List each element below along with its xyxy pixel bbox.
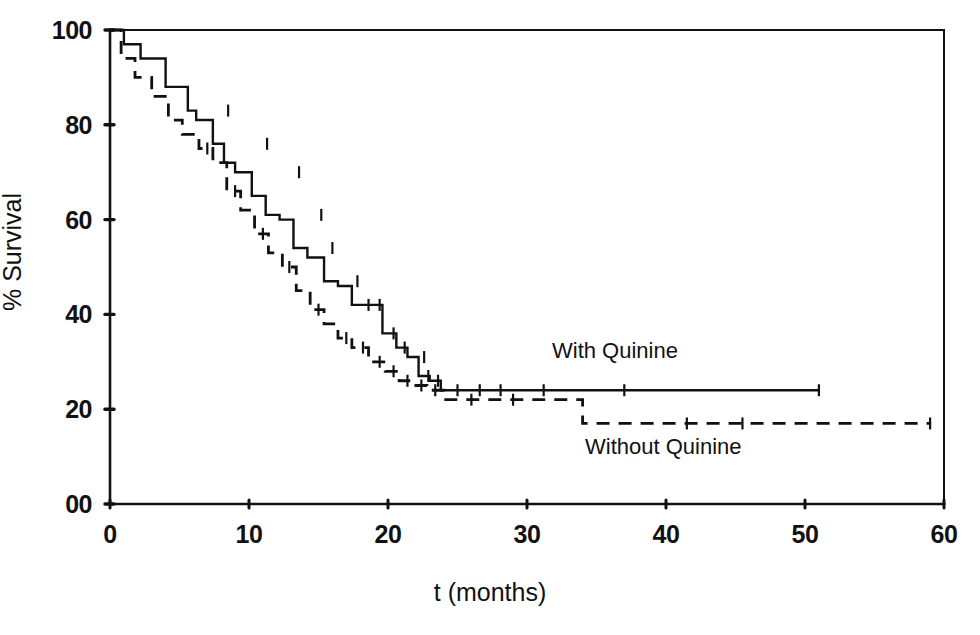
axes-group xyxy=(110,30,944,504)
y-axis-tick-label: 20 xyxy=(2,395,92,424)
series-label-without-quinine: Without Quinine xyxy=(585,434,742,460)
x-axis-tick-label: 0 xyxy=(103,520,116,549)
x-axis-title: t (months) xyxy=(434,578,547,607)
series-label-with-quinine: With Quinine xyxy=(552,338,678,364)
x-axis-tick-label: 20 xyxy=(375,520,402,549)
x-axis-tick-label: 40 xyxy=(653,520,680,549)
plot-canvas xyxy=(0,0,980,635)
y-axis-title: % Survival xyxy=(0,152,27,352)
x-axis-tick-label: 50 xyxy=(792,520,819,549)
y-axis-tick-label: 80 xyxy=(2,110,92,139)
x-axis-tick-label: 30 xyxy=(514,520,541,549)
survival-curve-without-quinine xyxy=(110,30,930,423)
x-axis-tick-label: 60 xyxy=(931,520,958,549)
survival-curve-with-quinine xyxy=(110,30,819,390)
axis-ticks-group xyxy=(105,30,944,508)
series-lines-group xyxy=(110,30,930,423)
censor-marks-group xyxy=(207,105,930,430)
survival-chart-figure: 0020406080100 0102030405060 % Survival t… xyxy=(0,0,980,635)
y-axis-tick-label: 100 xyxy=(2,16,92,45)
y-axis-tick-label: 00 xyxy=(2,490,92,519)
x-axis-tick-label: 10 xyxy=(236,520,263,549)
